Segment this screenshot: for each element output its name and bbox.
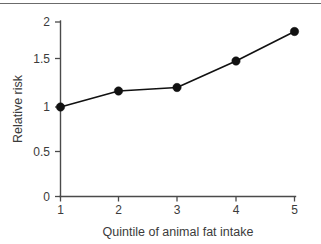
- data-point-q5: [290, 27, 298, 35]
- x-tick-label-2: 2: [115, 203, 122, 217]
- y-tick-label-1-5: 1.5: [33, 52, 50, 66]
- y-tick-label-0-5: 0.5: [33, 145, 50, 159]
- data-point-q2: [114, 87, 122, 95]
- y-tick-label-2: 2: [43, 15, 50, 29]
- x-tick-label-5: 5: [291, 203, 298, 217]
- y-axis-title: Relative risk: [11, 74, 25, 143]
- data-point-q4: [232, 57, 240, 65]
- data-point-q1: [56, 103, 64, 111]
- x-tick-label-3: 3: [174, 203, 181, 217]
- x-tick-label-4: 4: [233, 203, 240, 217]
- data-series-line: [61, 32, 295, 108]
- x-axis-ticks: [61, 197, 295, 202]
- y-tick-label-1: 1: [43, 100, 50, 114]
- y-tick-label-0: 0: [43, 190, 50, 204]
- x-tick-label-1: 1: [57, 203, 64, 217]
- relative-risk-line-chart: 0 0.5 1 1.5 2 1 2 3 4 5 Relative risk Qu…: [0, 0, 321, 244]
- x-axis-title: Quintile of animal fat intake: [103, 225, 254, 239]
- figure-container: 0 0.5 1 1.5 2 1 2 3 4 5 Relative risk Qu…: [0, 0, 321, 244]
- data-point-q3: [173, 83, 181, 91]
